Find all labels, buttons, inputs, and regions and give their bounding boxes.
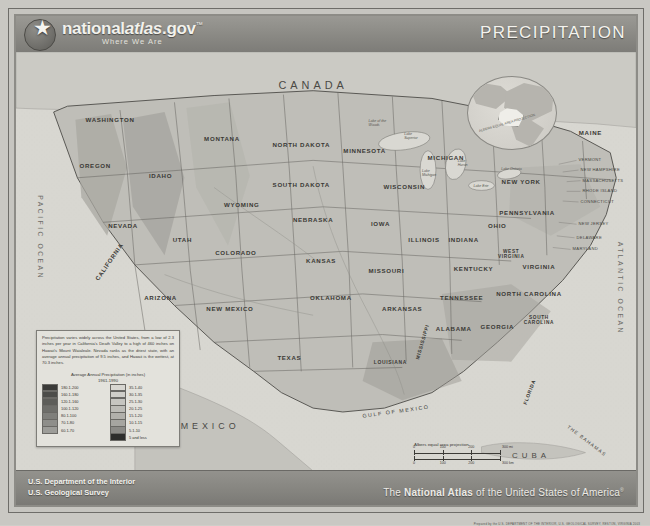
- svg-text:MASSACHUSETTS: MASSACHUSETTS: [583, 178, 624, 183]
- scale-bar: Albers equal area projection 0100200300 …: [414, 442, 534, 462]
- legend-class: 180.1-200: [42, 384, 106, 390]
- print-credit: Prepared by the U.S. DEPARTMENT OF THE I…: [474, 522, 640, 526]
- legend-column-right: 35.1-4030.1-3525.1-3020.1-2515.1-2010.1-…: [110, 384, 174, 441]
- svg-text:VERMONT: VERMONT: [579, 157, 602, 162]
- legend-class: 25.1-30: [110, 399, 174, 405]
- legend-swatch: [42, 426, 58, 434]
- legend-class: 120.1-160: [42, 399, 106, 405]
- inset-globe-frame: ALBERS EQUAL AREA PROJECTION: [467, 76, 557, 150]
- legend-label: 100.1-120: [61, 406, 79, 411]
- scale-tick: [471, 450, 472, 455]
- legend-class: 35.1-40: [110, 384, 174, 390]
- brand-wordmark: nationalatlas.gov™: [62, 19, 202, 39]
- svg-text:WASHINGTON: WASHINGTON: [86, 117, 135, 123]
- svg-text:NORTH CAROLINA: NORTH CAROLINA: [496, 291, 562, 297]
- legend-class: 5 and less: [110, 434, 174, 440]
- scale-tick-label: 100: [440, 461, 446, 465]
- legend-panel[interactable]: Precipitation varies widely across the U…: [36, 330, 180, 447]
- page-title: PRECIPITATION: [480, 23, 626, 43]
- svg-text:NEBRASKA: NEBRASKA: [293, 217, 333, 223]
- legend-class: 10.1-15: [110, 420, 174, 426]
- legend-label: 35.1-40: [129, 385, 142, 390]
- legend-label: 80.1-100: [61, 413, 76, 418]
- legend-class: 100.1-120: [42, 406, 106, 412]
- legend-class: 160.1-180: [42, 392, 106, 398]
- svg-text:ILLINOIS: ILLINOIS: [408, 237, 439, 243]
- svg-text:OKLAHOMA: OKLAHOMA: [310, 295, 352, 301]
- legend-class: 80.1-100: [42, 413, 106, 419]
- svg-text:NORTH DAKOTA: NORTH DAKOTA: [272, 142, 330, 148]
- brand[interactable]: nationalatlas.gov™ Where We Are: [62, 19, 202, 46]
- scale-tick-label: 200: [468, 461, 474, 465]
- svg-text:Lake Ontario: Lake Ontario: [501, 167, 521, 171]
- scale-tick: [500, 450, 501, 455]
- svg-text:TENNESSEE: TENNESSEE: [440, 295, 483, 301]
- svg-text:MONTANA: MONTANA: [204, 136, 240, 142]
- svg-text:NEW YORK: NEW YORK: [502, 179, 541, 185]
- map-frame: ★ nationalatlas.gov™ Where We Are PRECIP…: [14, 14, 638, 507]
- agency-credit: U.S. Department of the Interior U.S. Geo…: [28, 476, 135, 499]
- svg-text:IDAHO: IDAHO: [149, 173, 172, 179]
- scale-tick: [500, 456, 501, 461]
- svg-text:ARKANSAS: ARKANSAS: [382, 306, 422, 312]
- legend-label: 5 and less: [129, 435, 147, 440]
- scale-tick: [414, 450, 415, 455]
- legend-label: 60.1-70: [61, 428, 74, 433]
- map-paper: ★ nationalatlas.gov™ Where We Are PRECIP…: [8, 8, 644, 513]
- legend-class: 60.1-70: [42, 427, 106, 433]
- legend-label: 180.1-200: [61, 385, 79, 390]
- legend-title: Average Annual Precipitation (in inches)…: [42, 372, 174, 384]
- legend-label: 20.1-25: [129, 406, 142, 411]
- map-canvas[interactable]: PACIFIC OCEAN ATLANTIC OCEAN CANADA MEXI…: [16, 52, 636, 471]
- legend-class: 5.1-10: [110, 427, 174, 433]
- svg-text:OHIO: OHIO: [488, 223, 506, 229]
- scale-tick: [443, 450, 444, 455]
- svg-text:DELAWARE: DELAWARE: [577, 235, 602, 240]
- legend-class: 15.1-20: [110, 413, 174, 419]
- trademark-icon: ™: [196, 21, 203, 28]
- scale-tick-label: 0: [413, 445, 415, 449]
- svg-text:NEW MEXICO: NEW MEXICO: [206, 306, 253, 312]
- legend-description: Precipitation varies widely across the U…: [42, 335, 174, 367]
- ocean-label-pacific: PACIFIC OCEAN: [37, 195, 44, 280]
- svg-text:MAINE: MAINE: [579, 130, 602, 136]
- agency-line-1: U.S. Department of the Interior: [28, 476, 135, 487]
- legend-class: 70.1-80: [42, 420, 106, 426]
- svg-text:COLORADO: COLORADO: [215, 250, 256, 256]
- svg-text:TEXAS: TEXAS: [277, 355, 301, 361]
- page-header: ★ nationalatlas.gov™ Where We Are PRECIP…: [16, 16, 636, 53]
- svg-text:PENNSYLVANIA: PENNSYLVANIA: [499, 210, 554, 216]
- page-footer: U.S. Department of the Interior U.S. Geo…: [16, 470, 636, 505]
- legend-swatch: [110, 433, 126, 441]
- svg-text:VIRGINIA: VIRGINIA: [523, 264, 556, 270]
- alaska-inset[interactable]: ALBERS EQUAL AREA PROJECTION: [467, 76, 563, 154]
- svg-text:IOWA: IOWA: [371, 221, 390, 227]
- legend-label: 160.1-180: [61, 392, 79, 397]
- scale-bar-miles: 0100200300 mi: [414, 450, 534, 455]
- legend-label: 25.1-30: [129, 399, 142, 404]
- svg-text:GEORGIA: GEORGIA: [480, 324, 514, 330]
- scale-tick-label: 0: [413, 461, 415, 465]
- svg-text:SOUTH DAKOTA: SOUTH DAKOTA: [273, 183, 330, 189]
- svg-text:OREGON: OREGON: [80, 163, 111, 169]
- agency-line-2: U.S. Geological Survey: [28, 487, 135, 498]
- ocean-label-atlantic: ATLANTIC OCEAN: [617, 242, 624, 335]
- scale-tick-label: 200: [468, 445, 474, 449]
- svg-text:WISCONSIN: WISCONSIN: [383, 184, 425, 190]
- legend-label: 70.1-80: [61, 420, 74, 425]
- scale-tick-label: 300 mi: [502, 445, 513, 449]
- legend-label: 15.1-20: [129, 413, 142, 418]
- svg-text:MINNESOTA: MINNESOTA: [343, 148, 386, 154]
- doi-star-seal-icon: ★: [22, 17, 60, 51]
- legend-class: 20.1-25: [110, 406, 174, 412]
- svg-text:MARYLAND: MARYLAND: [573, 246, 598, 251]
- national-atlas-wordmark: The National Atlas of the United States …: [383, 487, 624, 498]
- svg-text:KENTUCKY: KENTUCKY: [454, 266, 494, 272]
- legend-label: 10.1-15: [129, 420, 142, 425]
- legend-label: 120.1-160: [61, 399, 79, 404]
- svg-text:RHODE ISLAND: RHODE ISLAND: [583, 188, 618, 193]
- scale-tick-label: 100: [440, 445, 446, 449]
- country-label-canada: CANADA: [279, 79, 348, 91]
- svg-text:KANSAS: KANSAS: [306, 258, 336, 264]
